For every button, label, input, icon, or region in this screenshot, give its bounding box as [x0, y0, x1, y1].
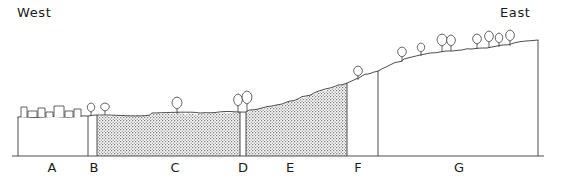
- cross-section-figure: West East A B C D E F G: [0, 0, 563, 186]
- tree-icon: [485, 31, 494, 48]
- stippled-strata-group: [97, 83, 347, 156]
- building-icon: [38, 108, 45, 117]
- tree-icon: [447, 35, 456, 51]
- building-icon: [74, 109, 81, 117]
- building-icon: [21, 107, 27, 117]
- tree-icon: [437, 34, 447, 52]
- building-icon: [54, 106, 64, 117]
- building-icon: [28, 111, 37, 117]
- tree-icon: [101, 103, 110, 115]
- cross-section-drawing: [0, 0, 563, 186]
- tree-icon: [398, 47, 407, 62]
- tree-icon: [473, 34, 482, 49]
- building-icon: [46, 112, 53, 117]
- tree-icon: [172, 97, 182, 114]
- tree-icon: [354, 66, 363, 80]
- west-direction-label: West: [17, 5, 51, 20]
- stipple-zone-e: [246, 83, 347, 156]
- tree-icon: [242, 91, 252, 112]
- building-icon: [65, 111, 73, 117]
- tree-icon: [234, 94, 243, 113]
- stipple-zone-c: [97, 112, 240, 156]
- buildings-group: [21, 106, 81, 117]
- tree-icon: [87, 103, 94, 116]
- east-direction-label: East: [500, 5, 530, 20]
